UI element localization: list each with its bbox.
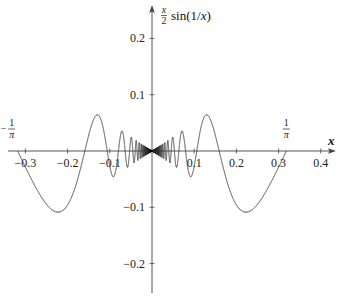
y-axis-label: x 2 sin(1/x)	[161, 4, 211, 26]
y-tick-label: 0.1	[130, 88, 145, 102]
y-tick-label: 0.2	[130, 31, 145, 45]
fraction-denominator: π	[9, 129, 15, 140]
pi-annotations: −1π1π	[1, 117, 290, 140]
y-label-part: )	[206, 8, 210, 23]
y-label-denominator: 2	[162, 15, 167, 26]
x-axis-label: x	[327, 133, 335, 148]
y-label-numerator: x	[161, 4, 167, 15]
pi-fraction-label: −1π	[1, 117, 15, 140]
fraction-numerator: 1	[284, 117, 289, 128]
x-tick-label: 0.2	[229, 156, 244, 170]
x-tick-label: 0.4	[313, 156, 328, 170]
fraction-denominator: π	[284, 129, 290, 140]
axes	[8, 5, 336, 293]
y-tick-label: −0.1	[123, 200, 145, 214]
function-plot: −0.3−0.2−0.10.10.20.30.4 0.20.1−0.1−0.2 …	[0, 0, 341, 299]
fraction-numerator: 1	[9, 117, 14, 128]
y-label-part: sin(1/	[171, 8, 201, 23]
y-label-function: sin(1/x)	[171, 8, 211, 23]
x-tick-label: −0.2	[57, 156, 79, 170]
minus-sign: −	[1, 123, 7, 134]
y-tick-label: −0.2	[123, 257, 145, 271]
pi-fraction-label: 1π	[283, 117, 290, 140]
